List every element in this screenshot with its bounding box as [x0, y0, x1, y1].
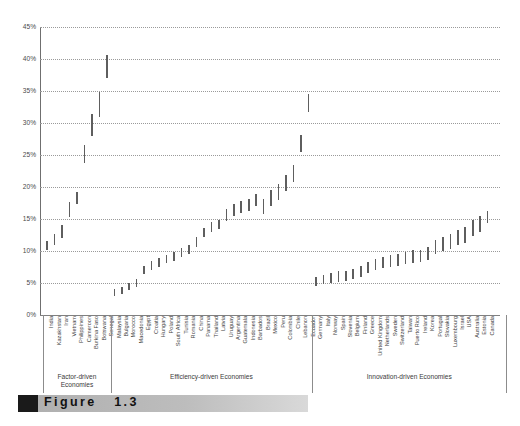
range-bar: [233, 204, 235, 216]
caption-label: Figure: [44, 395, 97, 409]
range-bar: [308, 94, 310, 113]
figure-container: 0%5%10%15%20%25%30%35%40%45% IndiaKazakh…: [0, 0, 520, 426]
x-axis-label: Argentina: [236, 316, 242, 340]
x-axis-label: Ireland: [423, 316, 429, 333]
y-axis-tick-label: 10%: [10, 248, 36, 255]
range-bar: [69, 202, 71, 217]
range-bar: [181, 248, 183, 256]
x-axis-label: Korea: [430, 316, 436, 331]
range-bar: [226, 209, 228, 221]
x-axis-label: Botswana: [102, 316, 108, 341]
range-bar: [338, 271, 340, 281]
x-axis-label: Norway: [333, 316, 339, 335]
x-axis-label: Panama: [206, 316, 212, 337]
x-axis-label: Portugal: [438, 316, 444, 337]
x-axis-label: Chile: [296, 316, 302, 329]
x-axis-label: Spain: [341, 316, 347, 330]
x-axis-label: Lebanon: [303, 316, 309, 338]
range-bar: [151, 261, 153, 269]
x-axis-label: Burkina Faso: [94, 316, 100, 349]
range-bar: [352, 269, 354, 279]
x-axis-label: Hungary: [161, 316, 167, 337]
range-bar: [450, 234, 452, 249]
range-bar: [360, 266, 362, 277]
range-bar: [84, 145, 86, 163]
x-axis-label: Brazil: [266, 316, 272, 330]
x-axis-label: Kazakhstan: [57, 316, 63, 345]
x-axis-label: Tunisia: [184, 316, 190, 334]
range-bar: [315, 277, 317, 286]
range-bar: [405, 252, 407, 264]
range-bar: [46, 241, 48, 250]
x-axis-label: Estonia: [482, 316, 488, 335]
range-bar: [196, 237, 198, 247]
x-axis-label: Iran: [64, 316, 70, 326]
range-bar: [106, 55, 108, 78]
x-axis-label: Taiwan: [408, 316, 414, 333]
x-axis-label: Poland: [169, 316, 175, 333]
range-bar: [278, 184, 280, 200]
x-axis-label: United Kingdom: [378, 316, 384, 356]
x-axis-label: Philippines: [79, 316, 85, 343]
range-bar: [114, 289, 116, 296]
y-axis-tick-label: 15%: [10, 216, 36, 223]
x-axis-category-labels: IndiaKazakhstanIranVietnamPhilippinesCam…: [40, 316, 500, 372]
range-bar: [323, 275, 325, 284]
y-axis-tick-label: 20%: [10, 184, 36, 191]
x-axis-label: Italy: [326, 316, 332, 326]
x-axis-label: Colombia: [288, 316, 294, 340]
y-axis-tick-label: 25%: [10, 152, 36, 159]
x-axis-label: Peru: [281, 316, 287, 328]
caption-number: 1.3: [114, 395, 139, 409]
x-axis-label: Barbados: [258, 316, 264, 340]
range-bar: [367, 262, 369, 273]
range-bar: [420, 250, 422, 262]
x-axis-label: Cameroon: [87, 316, 93, 342]
black-square-icon: [18, 395, 38, 412]
range-bar: [91, 114, 93, 136]
group-separator: [506, 315, 507, 393]
x-axis-label: Romania: [191, 316, 197, 338]
range-bar: [412, 250, 414, 262]
x-axis-label: Vietnam: [72, 316, 78, 336]
x-axis-label: South Africa: [176, 316, 182, 346]
range-bar: [211, 222, 213, 232]
x-axis-label: Latvia: [221, 316, 227, 331]
bar-series: [40, 27, 500, 315]
x-axis-label: Sweden: [393, 316, 399, 336]
x-axis-label: Guatemala: [243, 316, 249, 343]
chart-plot-area: 0%5%10%15%20%25%30%35%40%45%: [40, 27, 500, 315]
range-bar: [136, 279, 138, 287]
x-axis-label: Australia: [475, 316, 481, 338]
range-bar: [263, 199, 265, 214]
y-axis-tick-label: 45%: [10, 24, 36, 31]
range-bar: [173, 252, 175, 261]
range-bar: [427, 247, 429, 260]
x-axis-label: Netherlands: [385, 316, 391, 346]
x-axis-label: Israel: [460, 316, 466, 330]
y-axis-tick-label: 0%: [10, 312, 36, 319]
x-axis-label: Bulgaria: [124, 316, 130, 337]
y-axis-tick-label: 5%: [10, 280, 36, 287]
range-bar: [435, 240, 437, 253]
range-bar: [390, 255, 392, 267]
range-bar: [300, 135, 302, 152]
x-axis-label: Mexico: [273, 316, 279, 334]
x-axis-label: Germany: [318, 316, 324, 339]
figure-caption: Figure 1.3: [18, 395, 308, 412]
x-axis-label: India: [49, 316, 55, 328]
group-label: Factor-drivenEconomies: [43, 373, 110, 390]
range-bar: [442, 237, 444, 251]
range-bar: [128, 283, 130, 290]
x-axis-label: Thailand: [214, 316, 220, 337]
x-axis-label: Switzerland: [400, 316, 406, 345]
y-axis-tick-label: 40%: [10, 56, 36, 63]
x-axis-label: Slovakia: [445, 316, 451, 337]
range-bar: [240, 201, 242, 213]
range-bar: [345, 271, 347, 281]
x-axis-label: USA: [467, 316, 473, 328]
x-axis-label: Belgium: [355, 316, 361, 336]
range-bar: [255, 194, 257, 206]
range-bar: [487, 211, 489, 223]
group-label: Efficiency-driven Economies: [111, 373, 313, 381]
